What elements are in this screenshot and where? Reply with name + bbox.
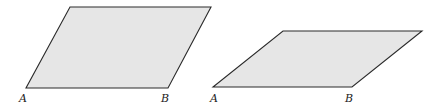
right-parallelogram-group: A B xyxy=(209,31,422,105)
parallelograms-diagram: A B A B xyxy=(0,0,445,106)
vertex-label-a-left: A xyxy=(18,92,27,105)
vertex-label-b-right: B xyxy=(344,92,353,105)
left-parallelogram xyxy=(26,7,211,88)
left-parallelogram-group: A B xyxy=(18,7,211,105)
right-parallelogram xyxy=(213,31,422,87)
vertex-label-a-right: A xyxy=(209,92,218,105)
vertex-label-b-left: B xyxy=(160,92,169,105)
